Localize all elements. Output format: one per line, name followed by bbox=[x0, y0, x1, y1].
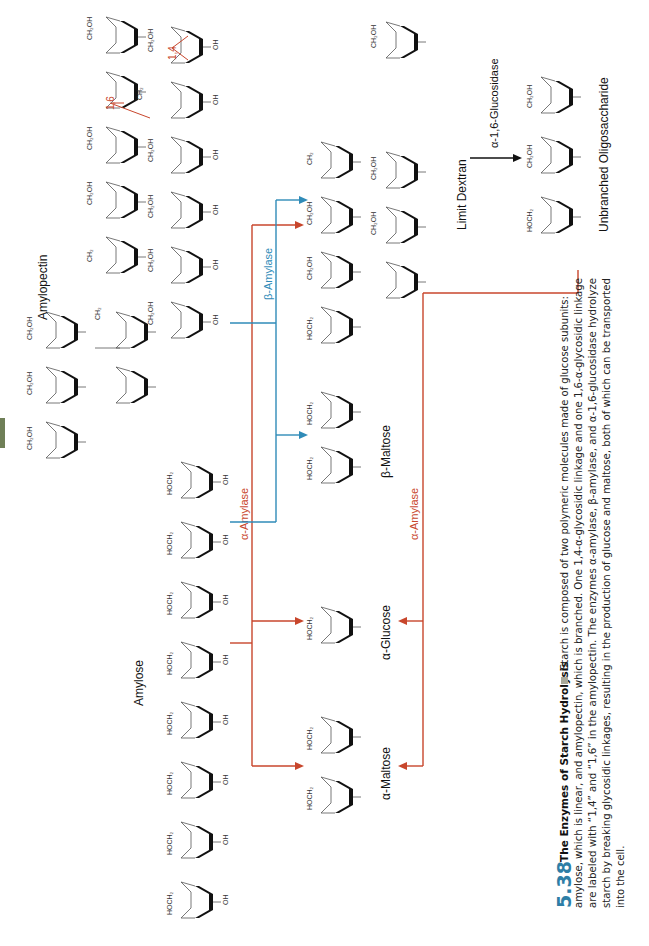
atom-label: CH₂OH bbox=[26, 372, 33, 395]
enzyme-label-beta-amylase: β-Amylase bbox=[262, 248, 274, 300]
atom-label: OH bbox=[212, 205, 219, 216]
atom-label: CH₂ bbox=[94, 307, 101, 320]
atom-label: CH₂ bbox=[136, 87, 143, 100]
atom-label: CH₂OH bbox=[26, 427, 33, 450]
label-alpha-glucose: α-Glucose bbox=[379, 605, 393, 660]
atom-label: HOCH₂ bbox=[166, 651, 173, 675]
atom-label: CH₂OH bbox=[370, 212, 377, 235]
atom-label: CH₂OH bbox=[526, 85, 533, 108]
caption-line-3: are labeled with “1,4” and “1,6” in the … bbox=[587, 278, 598, 908]
atom-label: HOCH₂ bbox=[166, 831, 173, 855]
atom-label: CH₂OH bbox=[306, 202, 313, 225]
atom-label: HOCH₂ bbox=[526, 208, 533, 232]
atom-label: HOCH₂ bbox=[306, 401, 313, 425]
figure-caption: 5.38 The Enzymes of Starch Hydrolysis St… bbox=[553, 278, 626, 908]
atom-label: OH bbox=[222, 475, 229, 486]
atom-label: HOCH₂ bbox=[166, 591, 173, 615]
alpha-amylase-arrowheads bbox=[295, 221, 407, 770]
caption-line-2: amylose, which is linear, and amylopecti… bbox=[573, 278, 584, 908]
figure-number: 5.38 bbox=[553, 861, 575, 908]
atom-label: OH bbox=[212, 315, 219, 326]
atom-label: OH bbox=[212, 40, 219, 51]
atom-label: HOCH₂ bbox=[306, 456, 313, 480]
atom-label: CH₂OH bbox=[147, 195, 154, 218]
atom-label: OH bbox=[212, 260, 219, 271]
caption-line-4: starch by breaking glycosidic linkages, … bbox=[601, 278, 612, 908]
atom-label: HOCH₂ bbox=[166, 771, 173, 795]
alpha-maltose-structure: HOCH₂ HOCH₂ α-Maltose bbox=[306, 717, 393, 813]
label-amylose: Amylose bbox=[132, 660, 146, 706]
atom-label: OH bbox=[222, 715, 229, 726]
amylopectin-structure: CH₂OH CH₂OH CH₂OH CH₂OH CH₂OH CH₂ CH₂ CH… bbox=[26, 17, 219, 458]
atom-label: CH₂OH bbox=[147, 302, 154, 325]
atom-label: HOCH₂ bbox=[166, 531, 173, 555]
caption-line-1: Starch is composed of two polymeric mole… bbox=[559, 296, 570, 670]
atom-label: OH bbox=[212, 95, 219, 106]
atom-label: CH₂OH bbox=[526, 145, 533, 168]
atom-label: OH bbox=[222, 835, 229, 846]
atom-label: HOCH₂ bbox=[166, 471, 173, 495]
atom-label: HOCH₂ bbox=[306, 616, 313, 640]
atom-label: CH₂OH bbox=[147, 29, 154, 52]
figure-title: The Enzymes of Starch Hydrolysis bbox=[558, 661, 570, 862]
atom-label: OH bbox=[222, 895, 229, 906]
label-amylopectin: Amylopectin bbox=[36, 255, 50, 320]
alpha-amylase-pathway bbox=[230, 225, 578, 766]
atom-label: OH bbox=[222, 775, 229, 786]
label-unbranched-oligosaccharide: Unbranched Oligosaccharide bbox=[597, 77, 611, 232]
atom-label: CH₂OH bbox=[147, 139, 154, 162]
atom-label: OH bbox=[222, 655, 229, 666]
starch-hydrolysis-figure: CH₂OH CH₂OH CH₂OH CH₂OH CH₂OH CH₂ CH₂ CH… bbox=[0, 0, 649, 946]
atom-label: CH₂ bbox=[306, 152, 313, 165]
atom-label: CH₂OH bbox=[147, 249, 154, 272]
label-alpha-maltose: α-Maltose bbox=[379, 747, 393, 800]
atom-label: HOCH₂ bbox=[306, 786, 313, 810]
caption-line-5: into the cell. bbox=[615, 846, 626, 908]
atom-label: HOCH₂ bbox=[166, 891, 173, 915]
alpha-glucose-structure: HOCH₂ α-Glucose bbox=[306, 605, 393, 660]
atom-label: CH₂ bbox=[86, 249, 93, 262]
atom-label: HOCH₂ bbox=[166, 711, 173, 735]
beta-maltose-structure: HOCH₂ HOCH₂ β-Maltose bbox=[306, 392, 393, 483]
atom-label: CH₂OH bbox=[306, 257, 313, 280]
enzyme-label-alpha-amylase-1: α-Amylase bbox=[238, 488, 250, 540]
atom-label: OH bbox=[222, 535, 229, 546]
label-beta-maltose: β-Maltose bbox=[379, 425, 393, 478]
atom-label: CH₂OH bbox=[26, 317, 33, 340]
label-limit-dextran: Limit Dextran bbox=[455, 159, 469, 230]
caption-separator-square bbox=[561, 677, 568, 684]
atom-label: OH bbox=[212, 150, 219, 161]
amylose-structure: HOCH₂ HOCH₂ HOCH₂ HOCH₂ HOCH₂ HOCH₂ HOCH… bbox=[132, 462, 229, 918]
unbranched-oligosaccharide-structure: CH₂OH CH₂OH HOCH₂ Unbranched Oligosaccha… bbox=[526, 77, 611, 233]
atom-label: OH bbox=[222, 595, 229, 606]
atom-label: CH₂OH bbox=[86, 182, 93, 205]
enzyme-label-alpha-1-6-glucosidase: α-1,6-Glucosidase bbox=[488, 58, 500, 148]
atom-label: HOCH₂ bbox=[306, 316, 313, 340]
atom-label: CH₂OH bbox=[370, 157, 377, 180]
atom-label: CH₂OH bbox=[370, 25, 377, 48]
atom-label: CH₂OH bbox=[86, 17, 93, 40]
glucosidase-arrow: α-1,6-Glucosidase bbox=[470, 58, 522, 162]
enzyme-label-alpha-amylase-2: α-Amylase bbox=[408, 488, 420, 540]
atom-label: CH₂OH bbox=[86, 127, 93, 150]
limit-dextran-structure: CH₂OH CH₂OH HOCH₂ CH₂ CH₂OH CH₂OH CH₂OH … bbox=[306, 22, 469, 343]
atom-label: HOCH₂ bbox=[306, 726, 313, 750]
